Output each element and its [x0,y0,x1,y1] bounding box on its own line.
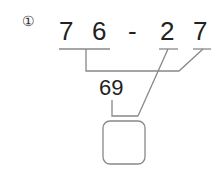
answer-box[interactable] [103,121,145,164]
decomposition-lines [0,0,222,177]
